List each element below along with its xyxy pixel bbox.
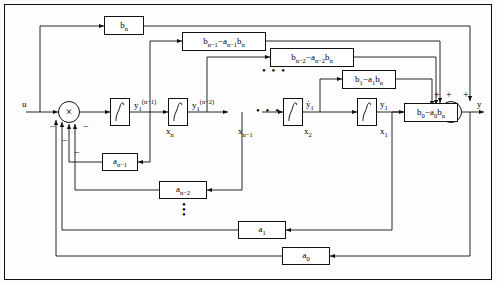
gain-box-bn-2-label: bn−2−an−2bn: [291, 52, 333, 64]
ellipsis-horizontal-main: • • •: [256, 104, 281, 116]
gain-box-an-1-label: an−1: [113, 156, 127, 168]
input-label-u: u: [22, 99, 27, 109]
gain-box-a0-label: a0: [302, 250, 309, 262]
integral-icon: [113, 100, 127, 124]
state-label-xn-1: xn−1: [238, 126, 253, 138]
sign-minus-left-3: −: [62, 136, 68, 146]
ellipsis-horizontal-top: • • •: [262, 64, 287, 76]
sign-minus-left-1: −: [50, 122, 56, 132]
signal-label-y1-dot: ẏ1: [306, 99, 314, 111]
integrator-1: [110, 98, 130, 126]
state-label-x1: x1: [380, 126, 388, 138]
integral-icon: [360, 100, 374, 124]
sign-plus-right-1: +: [434, 90, 440, 100]
gain-box-a1: a1: [238, 221, 286, 239]
gain-box-an-1: an−1: [102, 153, 138, 171]
sign-minus-left-4: −: [74, 148, 80, 158]
gain-box-b0-label: b0−a0bn: [417, 107, 445, 119]
output-label-y: y: [477, 99, 482, 109]
gain-box-bn-1-label: bn−1−an−1bn: [203, 36, 245, 48]
integrator-3: [283, 98, 303, 126]
ellipsis-dot-3: •: [178, 212, 190, 217]
signal-label-y1-n-2: y1(n−2): [192, 98, 214, 112]
gain-box-a0: a0: [282, 247, 330, 265]
gain-box-an-2: an−2: [159, 181, 207, 199]
signal-label-y1: y1: [380, 99, 388, 111]
gain-box-bn: bn: [104, 16, 144, 35]
gain-box-b0: b0−a0bn: [404, 103, 458, 122]
signal-label-y1-n-1: y1(n−1): [134, 98, 156, 112]
block-diagram-canvas: × − − − − × + + + + bn bn−1−an−1bn bn−2−: [0, 0, 498, 285]
sign-plus-right-3: +: [463, 90, 469, 100]
integral-icon: [171, 100, 185, 124]
gain-box-bn-1: bn−1−an−1bn: [182, 32, 266, 51]
integrator-2: [168, 98, 188, 126]
integrator-4: [357, 98, 377, 126]
state-label-xn: xn: [166, 126, 174, 138]
gain-box-an-2-label: an−2: [176, 184, 190, 196]
integral-icon: [286, 100, 300, 124]
gain-box-bn-label: bn: [120, 20, 128, 32]
ellipsis-vertical: • • •: [178, 202, 190, 217]
gain-box-a1-label: a1: [258, 224, 265, 236]
sign-plus-right-2: +: [446, 90, 452, 100]
gain-box-b1-label: b1−a1bn: [355, 74, 383, 86]
sum-junction-left: ×: [58, 101, 80, 123]
sign-minus-left-2: −: [83, 122, 89, 132]
state-label-x2: x2: [304, 126, 312, 138]
gain-box-b1: b1−a1bn: [342, 70, 396, 89]
multiply-icon: ×: [59, 102, 79, 122]
